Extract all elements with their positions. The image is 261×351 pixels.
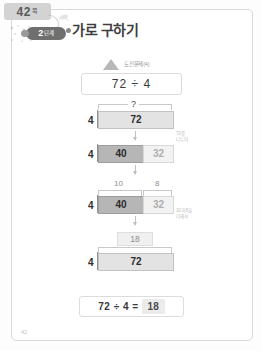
page-number-suffix: 쪽 bbox=[32, 6, 39, 15]
row3-cell-0: 40 bbox=[98, 196, 144, 214]
row2-cell-1: 32 bbox=[143, 145, 174, 163]
row3-top-label-1: 8 bbox=[153, 180, 161, 188]
side-note-0: 72를 나누어 bbox=[176, 131, 206, 143]
problem-box: 72 ÷ 4 bbox=[81, 73, 182, 95]
row2-to-row3-arrow bbox=[135, 165, 136, 174]
row3-top-label-0: 10 bbox=[112, 180, 125, 188]
side-note-1: 10과 8을 더해서 bbox=[176, 208, 210, 220]
answer-equation: 72 ÷ 4 = bbox=[98, 301, 138, 312]
row3-left-number: 4 bbox=[88, 201, 94, 211]
row3-to-row4-arrow bbox=[135, 216, 136, 225]
row4-cell-0: 72 bbox=[98, 253, 174, 271]
answer-box: 72 ÷ 4 = 18 bbox=[79, 296, 184, 317]
row2-left-number: 4 bbox=[88, 150, 94, 160]
row1-cell-0: 72 bbox=[98, 111, 174, 129]
row4-left-number: 4 bbox=[88, 258, 94, 268]
page-number: 42 bbox=[17, 6, 31, 18]
row3-cell-1: 32 bbox=[143, 196, 174, 214]
row1-left-number: 4 bbox=[88, 116, 94, 126]
challenge-triangle-icon bbox=[103, 59, 119, 70]
row1-bracket-label: ? bbox=[128, 100, 139, 109]
stage-suffix: 단계 bbox=[44, 31, 54, 37]
page-frame bbox=[11, 9, 253, 341]
stage-badge: 2 단계 bbox=[26, 27, 66, 40]
page-number-tab: 42 쪽 bbox=[4, 3, 51, 20]
row4-top-box: 18 bbox=[117, 232, 153, 246]
stage-number: 2 bbox=[38, 29, 43, 38]
challenge-label: 도전문제(4) bbox=[124, 62, 149, 68]
worksheet-page: 42 쪽 2 단계 가로 구하기 도전문제(4) 72 ÷ 4 ? 4 72 7… bbox=[0, 0, 261, 351]
page-title: 가로 구하기 bbox=[72, 23, 139, 37]
title-bullet-icon bbox=[66, 28, 71, 33]
problem-expression: 72 ÷ 4 bbox=[112, 77, 151, 91]
answer-result: 18 bbox=[142, 299, 165, 314]
footer-page-number: 42 bbox=[21, 330, 27, 336]
row2-cell-0: 40 bbox=[98, 145, 144, 163]
row1-to-row2-arrow bbox=[135, 131, 136, 140]
